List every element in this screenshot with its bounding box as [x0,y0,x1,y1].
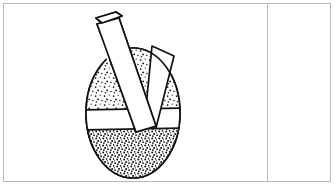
mortar-and-pestle-illustration [4,4,267,181]
blank-panel [268,4,330,181]
screenshot-root: Mortar and pestle cross-section [0,0,335,192]
blank-panel-label [268,4,269,5]
figure-panel: Mortar and pestle cross-section [4,4,267,181]
